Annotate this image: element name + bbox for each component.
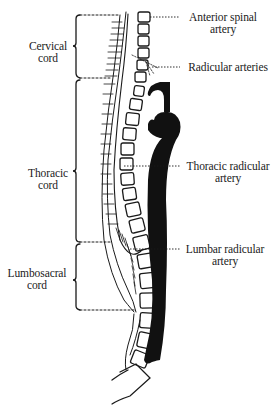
label-line: cord <box>4 279 70 291</box>
radicular-arteries-label: Radicular arteries <box>180 61 276 73</box>
spinal-cord-outline <box>102 12 140 370</box>
label-line: Radicular arteries <box>180 61 276 73</box>
cervical-cord-label: Cervical cord <box>26 40 70 64</box>
label-line: Anterior spinal <box>180 11 266 23</box>
label-line: Thoracic <box>26 167 70 179</box>
label-line: artery <box>180 255 270 267</box>
cervical-brace <box>73 15 120 78</box>
label-line: cord <box>26 52 70 64</box>
label-line: artery <box>180 23 266 35</box>
label-line: Lumbar radicular <box>180 243 270 255</box>
label-line: Thoracic radicular <box>181 160 275 172</box>
aorta <box>144 82 181 364</box>
thoracic-cord-label: Thoracic cord <box>26 167 70 191</box>
label-line: artery <box>181 172 275 184</box>
thoracic-radicular-artery-label: Thoracic radicular artery <box>181 160 275 184</box>
label-line: Cervical <box>26 40 70 52</box>
lumbosacral-brace <box>73 244 134 310</box>
label-line: Lumbosacral <box>4 267 70 279</box>
lumbar-radicular-artery-label: Lumbar radicular artery <box>180 243 270 267</box>
lumbosacral-cord-label: Lumbosacral cord <box>4 267 70 291</box>
label-line: cord <box>26 179 70 191</box>
anterior-spinal-artery-label: Anterior spinal artery <box>180 11 266 35</box>
